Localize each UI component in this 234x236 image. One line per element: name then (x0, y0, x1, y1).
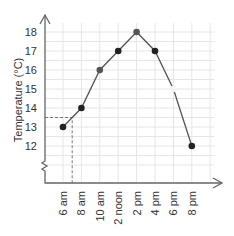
y-tick-label: 13 (25, 121, 37, 133)
x-tick-labels: 6 am8 am10 am2 noon2 pm4 pm6 pm8 pm (57, 191, 198, 225)
y-tick-label: 17 (25, 45, 37, 57)
y-tick-label: 15 (25, 83, 37, 95)
x-tick-label: 6 pm (167, 191, 179, 215)
y-tick-label: 14 (25, 102, 37, 114)
data-point (97, 67, 104, 74)
y-tick-label: 16 (25, 64, 37, 76)
data-point (133, 29, 140, 36)
x-tick-label: 2 noon (112, 191, 124, 225)
data-point (152, 48, 159, 55)
x-tick-label: 2 pm (131, 191, 143, 215)
y-tick-label: 18 (25, 26, 37, 38)
data-point (115, 48, 122, 55)
x-tick-label: 8 am (75, 191, 87, 215)
x-tick-label: 10 am (94, 191, 106, 222)
y-axis-label: Temperature (°C) (12, 58, 24, 142)
line-chart: 12131415161718 6 am8 am10 am2 noon2 pm4 … (0, 0, 234, 236)
y-tick-label: 12 (25, 140, 37, 152)
axes (40, 15, 222, 188)
x-tick-label: 4 pm (149, 191, 161, 215)
data-point (189, 143, 196, 150)
x-tick-label: 6 am (57, 191, 69, 215)
data-point (60, 124, 67, 131)
data-point (78, 105, 85, 112)
x-tick-label: 8 pm (186, 191, 198, 215)
data-point (170, 86, 177, 93)
grid (45, 23, 214, 183)
y-tick-labels: 12131415161718 (25, 26, 37, 152)
